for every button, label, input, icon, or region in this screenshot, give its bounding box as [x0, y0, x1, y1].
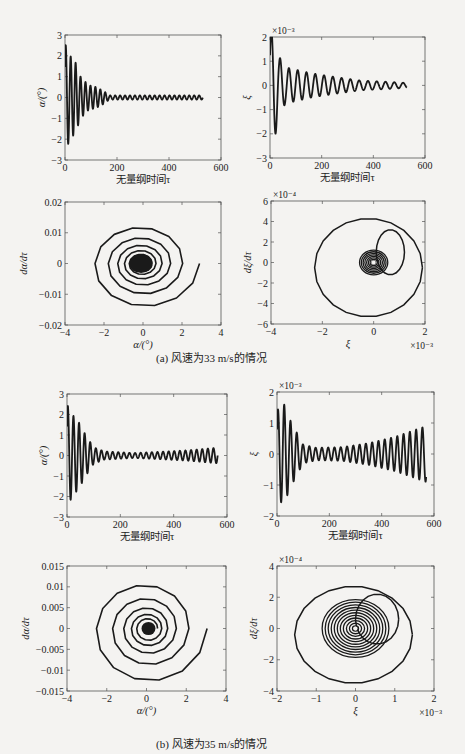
plot-area: [295, 587, 413, 683]
plot-area: [270, 30, 407, 133]
plot-frame: [270, 37, 425, 158]
chart-a-xi-phase: −4−202−6−4−20246ξdξ/dτ×10⁻⁴×10⁻³: [242, 190, 433, 351]
y-tick-label: 0.01: [47, 581, 65, 592]
x-tick-label: 200: [113, 519, 128, 530]
x-axis-label: ξ: [353, 705, 358, 717]
x-axis-label: ξ: [346, 338, 351, 350]
y-tick-label: 1: [262, 56, 267, 67]
y-tick-label: −0.01: [41, 665, 64, 676]
x-axis-label: α/(°): [137, 705, 157, 717]
y-tick-label: 6: [263, 196, 268, 207]
y-tick-label: 2: [263, 237, 268, 248]
y-tick-label: 2: [269, 387, 274, 398]
x-tick-label: 200: [314, 160, 329, 171]
plot-area: [95, 228, 200, 305]
y-axis-label: dξ/dτ: [248, 616, 260, 639]
y-tick-label: 2: [269, 592, 274, 603]
x-tick-label: 400: [166, 519, 181, 530]
x-tick-label: 2: [184, 693, 189, 704]
figure-canvas: 0200400600−3−2−10123无量纲时间τα/(°)020040060…: [0, 0, 465, 754]
y-axis-label: ξ: [241, 95, 253, 100]
plot-area: [97, 586, 208, 680]
y-tick-label: 4: [263, 216, 268, 227]
x-axis-label: α/(°): [133, 339, 153, 351]
chart-b-alpha-phase: −4−2024−0.015−0.01−0.00500.0050.010.015α…: [20, 561, 229, 718]
y-exponent-label: ×10⁻³: [279, 381, 302, 391]
phase-loop: [315, 219, 423, 316]
y-tick-label: −6: [257, 319, 268, 330]
y-axis-label: ξ: [248, 451, 260, 456]
y-tick-label: −1: [256, 104, 267, 115]
chart-b-xi-phase: −2−1012−4−2024ξdξ/dτ×10⁻⁴×10⁻³: [248, 555, 442, 718]
y-tick-label: 0.015: [42, 561, 65, 572]
chart-a-alpha-time: 0200400600−3−2−10123无量纲时间τα/(°): [36, 30, 229, 186]
x-tick-label: 0: [268, 160, 273, 171]
x-tick-label: 0: [65, 519, 70, 530]
x-axis-label: 无量纲时间τ: [120, 530, 174, 542]
x-exponent-label: ×10⁻³: [419, 708, 442, 718]
x-tick-label: 400: [366, 160, 381, 171]
y-tick-label: 2: [59, 409, 64, 420]
chart-b-alpha-time: 0200400600−3−2−10123无量纲时间τα/(°): [38, 389, 235, 543]
x-tick-label: 2: [423, 326, 428, 337]
y-tick-label: 0.01: [45, 227, 63, 238]
y-tick-label: 0: [57, 258, 62, 269]
y-tick-label: 3: [57, 30, 62, 41]
y-tick-label: 4: [269, 561, 274, 572]
y-tick-label: −3: [256, 153, 267, 164]
x-tick-label: 0: [63, 162, 68, 173]
series-line: [65, 45, 203, 144]
plot-area: [315, 219, 423, 316]
y-tick-label: −4: [263, 686, 274, 697]
y-axis-label: dξ/dτ: [242, 250, 254, 273]
y-tick-label: −4: [257, 298, 268, 309]
caption-b: (b) 风速为35 m/s的情况: [156, 735, 267, 751]
y-tick-label: −2: [263, 654, 274, 665]
x-tick-label: 0: [144, 693, 149, 704]
y-tick-label: −2: [263, 511, 274, 522]
y-tick-label: 0: [59, 450, 64, 461]
y-tick-label: 1: [57, 71, 62, 82]
x-tick-label: 400: [162, 162, 177, 173]
y-exponent-label: ×10⁻⁴: [279, 555, 303, 565]
plot-area: [65, 45, 203, 144]
y-exponent-label: ×10⁻³: [272, 26, 295, 36]
x-tick-label: 0: [353, 693, 358, 704]
y-tick-label: 0: [59, 623, 64, 634]
x-tick-label: −2: [99, 327, 110, 338]
y-tick-label: 0: [263, 257, 268, 268]
x-tick-label: 1: [392, 693, 397, 704]
x-tick-label: 200: [322, 518, 337, 529]
y-tick-label: 2: [262, 32, 267, 43]
chart-a-alpha-phase: −4−2024−0.02−0.0100.010.02α/(°)dα/dτ: [18, 197, 224, 352]
y-tick-label: −2: [51, 134, 62, 145]
y-tick-label: −3: [51, 155, 62, 166]
y-axis-label: dα/dτ: [18, 251, 29, 275]
caption-a: (a) 风速为33 m/s的情况: [156, 349, 267, 365]
y-tick-label: 0: [57, 92, 62, 103]
x-tick-label: −1: [311, 693, 322, 704]
y-tick-label: 0.02: [45, 197, 63, 208]
y-tick-label: 2: [57, 50, 62, 61]
x-tick-label: 2: [180, 327, 185, 338]
x-tick-label: 400: [374, 518, 389, 529]
y-tick-label: −2: [257, 278, 268, 289]
y-tick-label: −0.02: [39, 320, 62, 331]
x-tick-label: 600: [220, 519, 235, 530]
x-axis-label: 无量纲时间τ: [320, 171, 374, 183]
y-tick-label: −1: [53, 471, 64, 482]
y-tick-label: 0: [269, 449, 274, 460]
y-tick-label: −0.005: [36, 644, 64, 655]
y-tick-label: 0: [269, 623, 274, 634]
y-tick-label: 3: [59, 389, 64, 400]
y-exponent-label: ×10⁻⁴: [273, 190, 297, 200]
series-line: [270, 30, 407, 133]
x-axis-label: 无量纲时间τ: [116, 173, 170, 185]
y-tick-label: −3: [53, 512, 64, 523]
y-axis-label: α/(°): [38, 445, 50, 465]
y-tick-label: −2: [256, 128, 267, 139]
plot-area: [277, 405, 426, 503]
phase-core: [129, 254, 152, 273]
plot-area: [67, 406, 218, 500]
x-tick-label: 4: [219, 327, 224, 338]
